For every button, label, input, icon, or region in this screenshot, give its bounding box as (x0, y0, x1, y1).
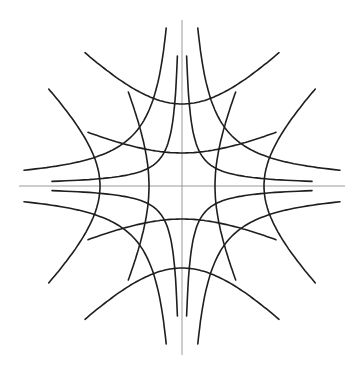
rect-hyperbola-inner (187, 56, 312, 181)
hyperbola-diagram (0, 0, 358, 370)
rect-hyperbola-inner (187, 191, 312, 316)
rect-hyperbola-inner (52, 191, 177, 316)
rect-hyperbola-inner (52, 56, 177, 181)
